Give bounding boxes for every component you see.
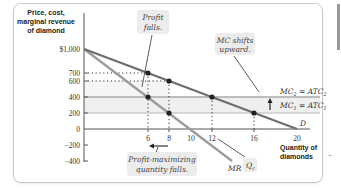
x-axis-label-1: Quantity of bbox=[280, 144, 318, 152]
chart-svg: Price, cost, marginal revenue of diamond… bbox=[0, 0, 341, 188]
profit-falls-text-2: falls. bbox=[143, 23, 162, 32]
x-tick-20: 20 bbox=[293, 134, 301, 143]
qty-falls-text-2: quantity falls. bbox=[136, 165, 188, 174]
y-axis-label-2: marginal revenue bbox=[17, 18, 75, 26]
demand-label: D bbox=[299, 119, 306, 128]
mr-label: MR bbox=[227, 164, 242, 173]
mc-shift-text-2: upward. bbox=[219, 45, 250, 54]
x-tick-16: 16 bbox=[250, 134, 258, 143]
mc1-atc1-label: MC1 = ATC1 bbox=[279, 101, 327, 111]
profit-falls-text-1: Profit bbox=[141, 13, 164, 22]
point-6-700 bbox=[145, 70, 150, 75]
y-tick-200: 200 bbox=[69, 109, 81, 118]
profit-falls-pointer bbox=[142, 35, 152, 87]
y-tick-600: 600 bbox=[69, 77, 81, 86]
x-tick-12: 12 bbox=[208, 134, 216, 143]
point-16-200 bbox=[251, 110, 256, 115]
left-arrow-icon bbox=[149, 144, 154, 149]
point-8-200 bbox=[166, 110, 171, 115]
x-tick-10: 10 bbox=[187, 134, 195, 143]
x-tick-8: 8 bbox=[167, 134, 171, 143]
y-axis-label-3: of diamond bbox=[27, 27, 65, 34]
mc-shift-text-1: MC shifts bbox=[216, 36, 254, 45]
y-axis-label-1: Price, cost, bbox=[27, 9, 64, 17]
y-tick-400: 400 bbox=[69, 93, 81, 102]
shade-band-upper bbox=[84, 81, 169, 97]
y-tick-0: 0 bbox=[76, 125, 80, 134]
y-tick-m200: −200 bbox=[65, 141, 81, 150]
mc-shift-pointer bbox=[234, 56, 259, 92]
point-6-400 bbox=[145, 94, 150, 99]
x-axis-label-2: diamonds bbox=[280, 153, 313, 160]
y-tick-m400: −400 bbox=[65, 157, 81, 166]
point-8-600 bbox=[166, 78, 171, 83]
mc2-atc2-label: MC2 = ATC2 bbox=[279, 87, 327, 97]
qty-falls-text-1: Profit-maximizing bbox=[127, 155, 196, 164]
y-tick-1000: $1,000 bbox=[59, 45, 80, 54]
point-12-400 bbox=[209, 94, 214, 99]
x-tick-6: 6 bbox=[146, 134, 150, 143]
